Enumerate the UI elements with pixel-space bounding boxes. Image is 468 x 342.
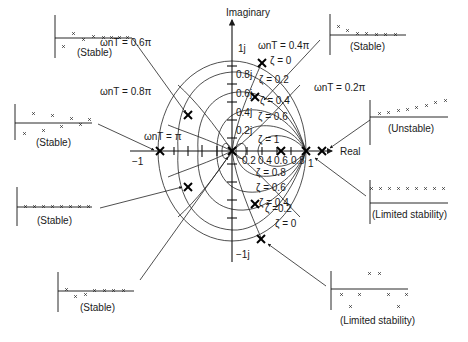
damping-label-0-8-lower: ζ = 0.8 — [256, 167, 286, 179]
real-tick-0-6: 0.6 — [274, 155, 288, 166]
imag-tick-0-4j: 0.4j — [236, 107, 252, 118]
z-plane-diagram: Imaginary Real 1j 0.8j 0.6j 0.4j 0.2j −1… — [0, 0, 468, 342]
freq-label-0-4pi: ωnT = 0.4π — [258, 40, 310, 51]
inset-top-right-caption: (Stable) — [350, 41, 385, 52]
imag-tick-1j: 1j — [238, 43, 246, 54]
inset-bottom-right-caption: (Limited stability) — [340, 315, 415, 326]
damping-label-0-2-upper: ζ = 0.2 — [259, 74, 289, 86]
damping-label-0-lower: ζ = 0 — [275, 218, 297, 230]
inset-bottom-left-caption: (Stable) — [80, 302, 115, 313]
imag-tick-0-2j: 0.2j — [236, 125, 252, 136]
real-tick-neg-1: −1 — [132, 156, 144, 167]
real-tick-0-8: 0.8 — [291, 155, 305, 166]
damping-label-0-6-lower: ζ = 0.6 — [256, 182, 286, 194]
imag-tick-0-6j: 0.6j — [236, 88, 252, 99]
real-axis-label: Real — [340, 146, 361, 157]
inset-top-left-caption: (Stable) — [77, 47, 112, 58]
imag-tick-0-8j: 0.8j — [236, 69, 252, 80]
damping-label-1-upper: ζ = 1 — [258, 134, 280, 146]
real-tick-0-4: 0.4 — [258, 155, 272, 166]
freq-label-pi: ωnT = π — [144, 131, 182, 142]
damping-label-0-upper: ζ = 0 — [270, 55, 292, 67]
pole-x-icon — [184, 183, 192, 191]
pole-x-icon — [257, 235, 265, 243]
real-tick-1: 1 — [308, 158, 314, 169]
damping-label-0-4-upper: ζ = 0.4 — [260, 95, 290, 107]
inset-mid-left — [15, 104, 92, 140]
inset-bottom-right — [331, 271, 408, 310]
freq-label-0-2pi: ωnT = 0.2π — [314, 82, 366, 93]
inset-mid-left-caption: (Stable) — [36, 137, 71, 148]
pole-x-icon — [251, 200, 259, 208]
real-tick-0-2: 0.2 — [242, 155, 256, 166]
freq-label-0-8pi: ωnT = 0.8π — [100, 86, 152, 97]
damping-label-0-6-upper: ζ = 0.6 — [258, 111, 288, 123]
inset-right-upper-caption: (Unstable) — [388, 123, 434, 134]
pole-x-icon — [258, 59, 266, 67]
inset-left-lower-caption: (Stable) — [37, 215, 72, 226]
inset-right-mid-caption: (Limited stability) — [372, 209, 447, 220]
imag-tick-neg-1j: −1j — [236, 249, 250, 260]
inset-right-upper — [370, 99, 448, 145]
damping-label-0-2-lower: ζ =0.2 — [265, 203, 292, 215]
imaginary-axis-label: Imaginary — [226, 7, 270, 18]
